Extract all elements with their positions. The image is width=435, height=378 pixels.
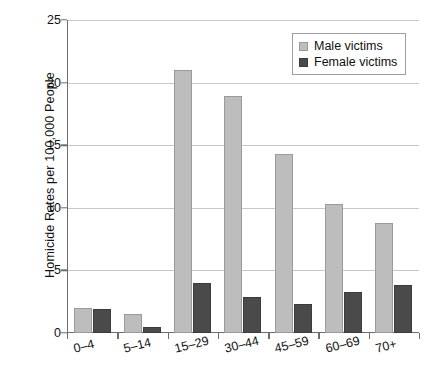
y-tick-label: 5: [31, 263, 61, 277]
bar-male: [375, 223, 393, 333]
bar-female: [193, 283, 211, 333]
bar-male: [325, 204, 343, 333]
x-tick-mark: [419, 333, 420, 339]
bar-female: [294, 304, 312, 333]
bar-group: [117, 20, 167, 333]
x-tick-mark: [117, 333, 118, 339]
x-tick-mark: [218, 333, 219, 339]
bar-group: [218, 20, 268, 333]
chart-legend: Male victimsFemale victims: [292, 33, 406, 75]
bar-female: [243, 297, 261, 333]
y-tick-label: 25: [31, 13, 61, 27]
x-tick-mark: [67, 333, 68, 339]
bar-male: [124, 314, 142, 333]
x-tick-label: 60–69: [324, 334, 361, 356]
bar-female: [394, 285, 412, 333]
y-tick-label: 10: [31, 201, 61, 215]
bar-male: [74, 308, 92, 333]
female-swatch-icon: [299, 58, 308, 67]
x-tick-mark: [369, 333, 370, 339]
x-tick-label: 45–59: [273, 334, 310, 356]
bar-male: [275, 154, 293, 333]
bar-chart: Homicide Rates per 100,000 People 051015…: [0, 0, 435, 378]
x-tick-label: 5–14: [122, 335, 152, 355]
bar-group: [168, 20, 218, 333]
bar-group: [67, 20, 117, 333]
y-tick-label: 0: [31, 326, 61, 340]
legend-item: Female victims: [299, 54, 397, 70]
y-tick-label: 15: [31, 138, 61, 152]
y-tick-label: 20: [31, 76, 61, 90]
legend-label: Male victims: [314, 39, 383, 53]
bar-male: [174, 70, 192, 333]
x-tick-label: 0–4: [72, 337, 96, 356]
x-tick-mark: [268, 333, 269, 339]
male-swatch-icon: [299, 42, 308, 51]
bar-male: [224, 96, 242, 333]
legend-label: Female victims: [314, 55, 397, 69]
x-tick-label: 70+: [374, 337, 398, 356]
y-axis-title: Homicide Rates per 100,000 People: [43, 25, 57, 325]
x-axis-ticks: 0–45–1415–2930–4445–5960–6970+: [67, 333, 419, 378]
bar-female: [93, 309, 111, 333]
x-tick-mark: [318, 333, 319, 339]
x-tick-label: 30–44: [223, 334, 260, 356]
legend-item: Male victims: [299, 38, 397, 54]
bar-female: [344, 292, 362, 333]
x-tick-mark: [168, 333, 169, 339]
x-tick-label: 15–29: [173, 334, 210, 356]
